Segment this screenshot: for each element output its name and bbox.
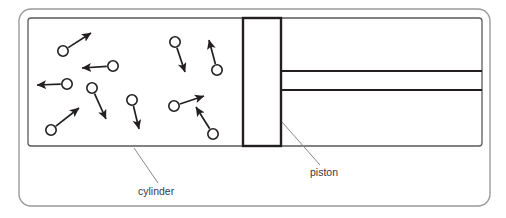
cylinder-label-leader-line	[134, 148, 158, 183]
gas-molecule	[127, 95, 139, 129]
piston-label-leader-line	[282, 122, 320, 165]
gas-molecules	[37, 33, 222, 139]
piston-label: piston	[310, 166, 338, 178]
cylinder-label: cylinder	[138, 185, 175, 197]
gas-cylinder-diagram: cylinderpiston	[0, 0, 506, 218]
gas-molecule	[82, 61, 118, 71]
gas-molecule	[196, 107, 218, 139]
piston-head	[243, 18, 281, 146]
gas-molecule	[169, 96, 204, 111]
velocity-arrow	[82, 66, 107, 68]
velocity-arrow	[196, 107, 210, 129]
velocity-arrow	[37, 84, 61, 85]
velocity-arrow	[133, 106, 139, 129]
gas-molecule	[87, 83, 106, 119]
gas-molecule	[46, 108, 79, 135]
gas-molecule	[37, 79, 72, 89]
velocity-arrow	[95, 94, 106, 119]
velocity-arrow	[177, 48, 185, 72]
gas-molecule	[58, 33, 91, 56]
molecule-circle	[108, 61, 118, 71]
velocity-arrow	[56, 108, 79, 126]
molecule-circle	[127, 95, 137, 105]
molecule-circle	[208, 129, 218, 139]
molecule-circle	[170, 37, 180, 47]
molecule-circle	[212, 65, 222, 75]
molecule-circle	[58, 46, 68, 56]
gas-molecule	[209, 40, 222, 75]
molecule-circle	[169, 101, 179, 111]
velocity-arrow	[68, 33, 91, 48]
velocity-arrow	[180, 96, 204, 104]
velocity-arrow	[209, 40, 215, 64]
diagram-canvas: cylinderpiston	[0, 0, 506, 218]
molecule-circle	[46, 125, 56, 135]
molecule-circle	[62, 79, 72, 89]
molecule-circle	[87, 83, 97, 93]
annotation-labels: cylinderpiston	[134, 122, 338, 197]
gas-molecule	[170, 37, 185, 72]
